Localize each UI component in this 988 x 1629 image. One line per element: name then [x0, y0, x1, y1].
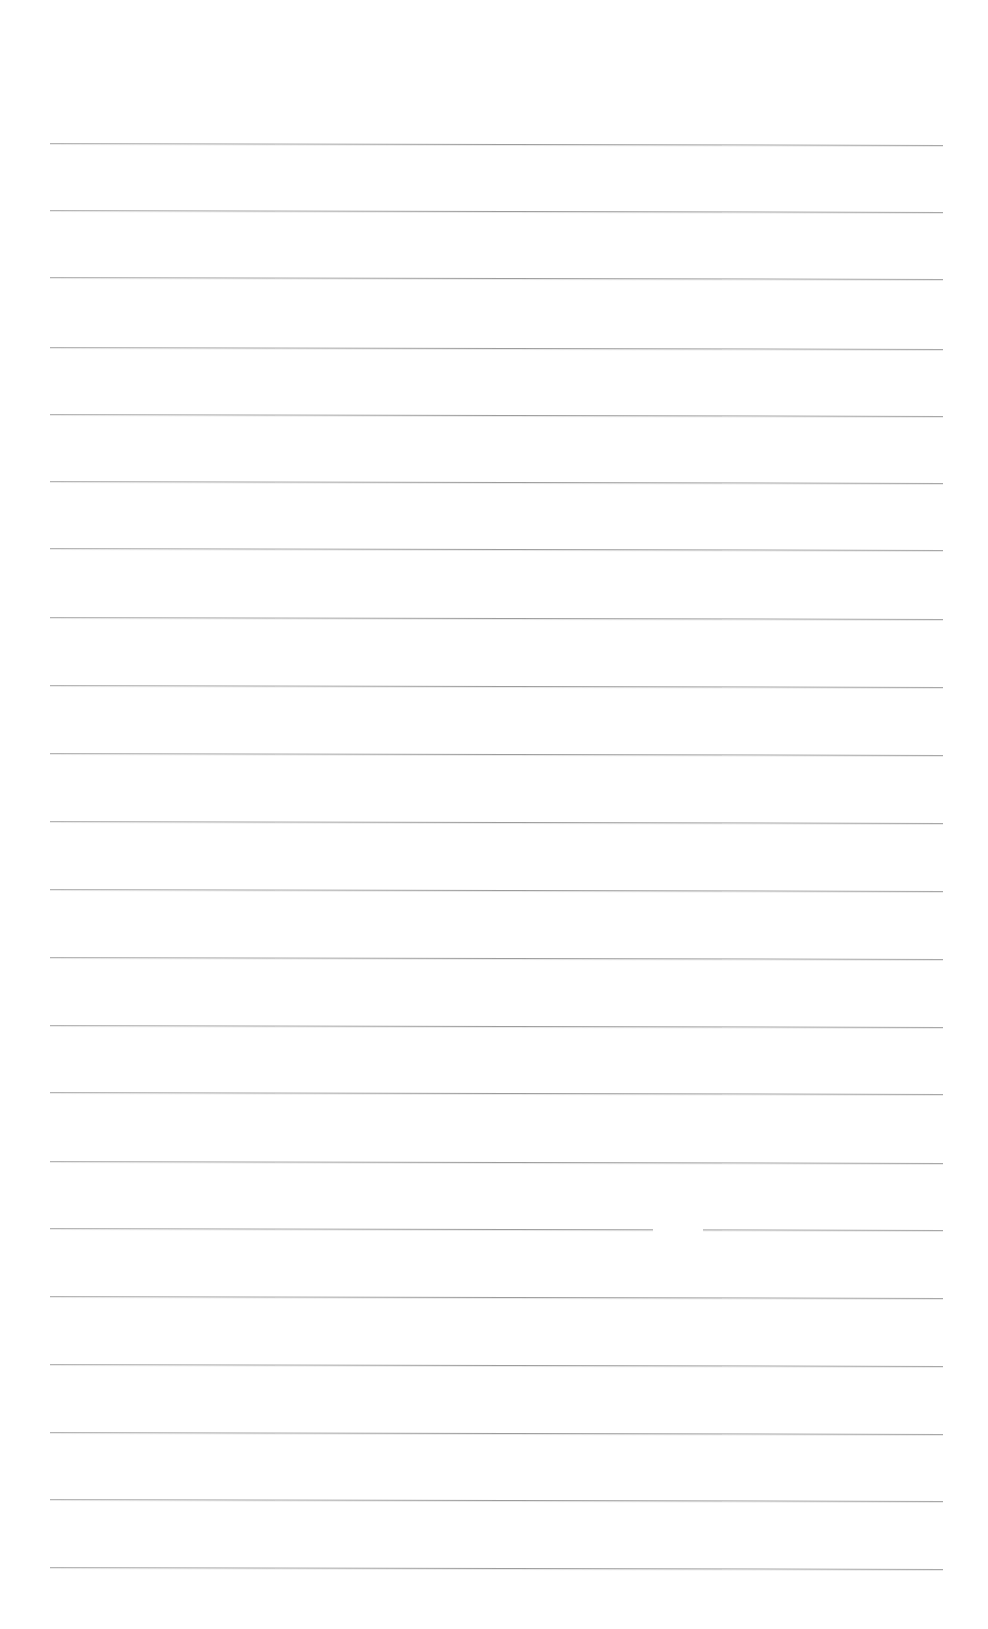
- ruled-line: [50, 1092, 943, 1095]
- ruled-line: [50, 821, 943, 824]
- ruled-line: [50, 1161, 943, 1164]
- ruled-line: [50, 889, 943, 892]
- ruled-line: [50, 685, 943, 688]
- lined-paper-sheet: [0, 0, 988, 1629]
- ruled-line: [50, 481, 943, 484]
- ruled-line: [50, 414, 943, 417]
- ruled-line: [50, 143, 943, 146]
- ruled-line: [50, 1296, 943, 1299]
- ruled-line: [50, 210, 943, 213]
- ruled-line: [50, 277, 943, 280]
- ruled-line: [50, 1567, 943, 1570]
- ruled-line: [50, 753, 943, 756]
- ruled-line: [50, 347, 943, 350]
- ruled-line: [50, 1499, 943, 1502]
- ruled-line: [50, 1364, 943, 1367]
- ruled-line: [50, 1432, 943, 1435]
- ruled-line: [50, 957, 943, 960]
- ruled-line: [50, 1228, 943, 1231]
- ruled-line-gap: [653, 1228, 703, 1232]
- ruled-line: [50, 1025, 943, 1028]
- ruled-line: [50, 548, 943, 551]
- ruled-line: [50, 617, 943, 620]
